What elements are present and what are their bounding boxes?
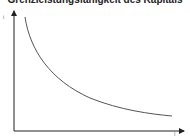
diagram-canvas <box>0 0 190 138</box>
y-axis-label: i <box>3 14 4 20</box>
x-axis-label: I <box>174 131 175 137</box>
mec-curve <box>25 17 172 116</box>
